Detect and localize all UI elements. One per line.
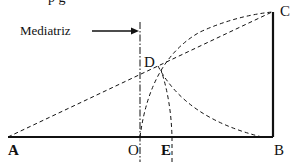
arrow-head-icon xyxy=(131,28,139,35)
diagram-canvas: p g Mediatriz C D A O E B xyxy=(0,0,296,162)
point-label-c: C xyxy=(280,4,290,19)
cropped-top-text: p g xyxy=(48,0,66,5)
mediatriz-label: Mediatriz xyxy=(20,24,71,37)
arc-o-to-c xyxy=(140,12,272,137)
point-label-o: O xyxy=(128,143,139,158)
point-label-e: E xyxy=(161,143,171,158)
point-label-b: B xyxy=(274,143,284,158)
point-label-d: D xyxy=(144,55,155,70)
point-label-a: A xyxy=(8,143,19,158)
arc-d-to-b xyxy=(158,66,262,137)
